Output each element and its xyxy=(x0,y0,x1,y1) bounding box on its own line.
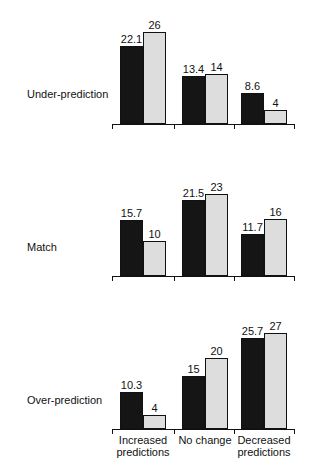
bar-dark xyxy=(120,46,143,124)
bar-stippled xyxy=(264,333,287,429)
axis-tick xyxy=(174,276,175,281)
bar-stippled xyxy=(143,241,166,277)
axis-tick xyxy=(234,124,235,129)
value-label: 4 xyxy=(256,97,296,109)
bar-dark xyxy=(241,338,264,429)
axis-tick xyxy=(174,124,175,129)
axis-tick xyxy=(234,276,235,281)
value-label: 8.6 xyxy=(233,80,273,92)
bar-dark xyxy=(182,376,205,429)
x-axis-line xyxy=(112,124,295,125)
bar-stippled xyxy=(205,358,228,429)
bar-dark xyxy=(182,200,205,276)
x-category-label: predictions xyxy=(108,446,178,458)
bar-stippled xyxy=(205,74,228,124)
x-category-label: Decreased xyxy=(229,434,299,446)
x-category-label: Increased xyxy=(108,434,178,446)
x-category-label: predictions xyxy=(229,446,299,458)
x-axis-line xyxy=(112,429,295,430)
row-label: Under-prediction xyxy=(27,88,108,100)
value-label: 20 xyxy=(197,345,237,357)
axis-tick xyxy=(112,276,113,281)
bar-stippled xyxy=(264,110,287,124)
value-label: 10 xyxy=(135,228,175,240)
bar-stippled xyxy=(264,219,287,276)
row-label: Over-prediction xyxy=(27,394,102,406)
value-label: 4 xyxy=(135,402,175,414)
value-label: 26 xyxy=(135,19,175,31)
value-label: 14 xyxy=(197,61,237,73)
axis-tick xyxy=(112,124,113,129)
value-label: 27 xyxy=(256,320,296,332)
bar-dark xyxy=(182,76,205,124)
value-label: 23 xyxy=(197,181,237,193)
row-label: Match xyxy=(27,241,57,253)
bar-dark xyxy=(241,234,264,276)
value-label: 10.3 xyxy=(112,379,152,391)
bar-stippled xyxy=(143,32,166,124)
value-label: 16 xyxy=(256,206,296,218)
value-label: 15.7 xyxy=(112,207,152,219)
bar-stippled xyxy=(205,194,228,276)
bar-stippled xyxy=(143,415,166,429)
x-axis-line xyxy=(112,276,295,277)
axis-tick xyxy=(294,276,295,281)
axis-tick xyxy=(294,124,295,129)
